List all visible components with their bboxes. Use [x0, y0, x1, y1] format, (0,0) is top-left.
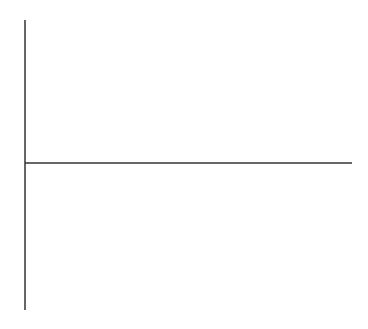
plot-area	[25, 20, 352, 310]
chart-canvas	[0, 0, 368, 329]
